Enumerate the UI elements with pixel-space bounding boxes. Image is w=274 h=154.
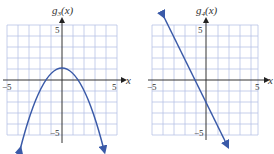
tick-xmin-left: −5: [2, 82, 12, 92]
x-label-left: x: [125, 74, 131, 86]
tick-xmax-left: 5: [112, 82, 117, 92]
title-g3-tail: (x): [61, 4, 74, 17]
graph-g3: g3(x) x −5 5 5 −5: [2, 4, 131, 150]
tick-ymax-right: 5: [198, 25, 203, 35]
x-label-right: x: [267, 74, 273, 86]
graphs-svg: g3(x) x −5 5 5 −5: [0, 0, 274, 154]
svg-text:g3(x): g3(x): [52, 4, 74, 18]
tick-xmin-right: −5: [147, 82, 157, 92]
figure: g3(x) x −5 5 5 −5: [0, 0, 274, 154]
tick-ymin-left: −5: [50, 128, 60, 138]
tick-ymin-right: −5: [194, 128, 204, 138]
graph-g4: g4(x) x −5 5 5 −5: [147, 4, 273, 145]
title-g4-tail: (x): [205, 4, 218, 17]
tick-xmax-right: 5: [255, 82, 260, 92]
tick-ymax-left: 5: [55, 25, 60, 35]
svg-text:g4(x): g4(x): [196, 4, 218, 18]
